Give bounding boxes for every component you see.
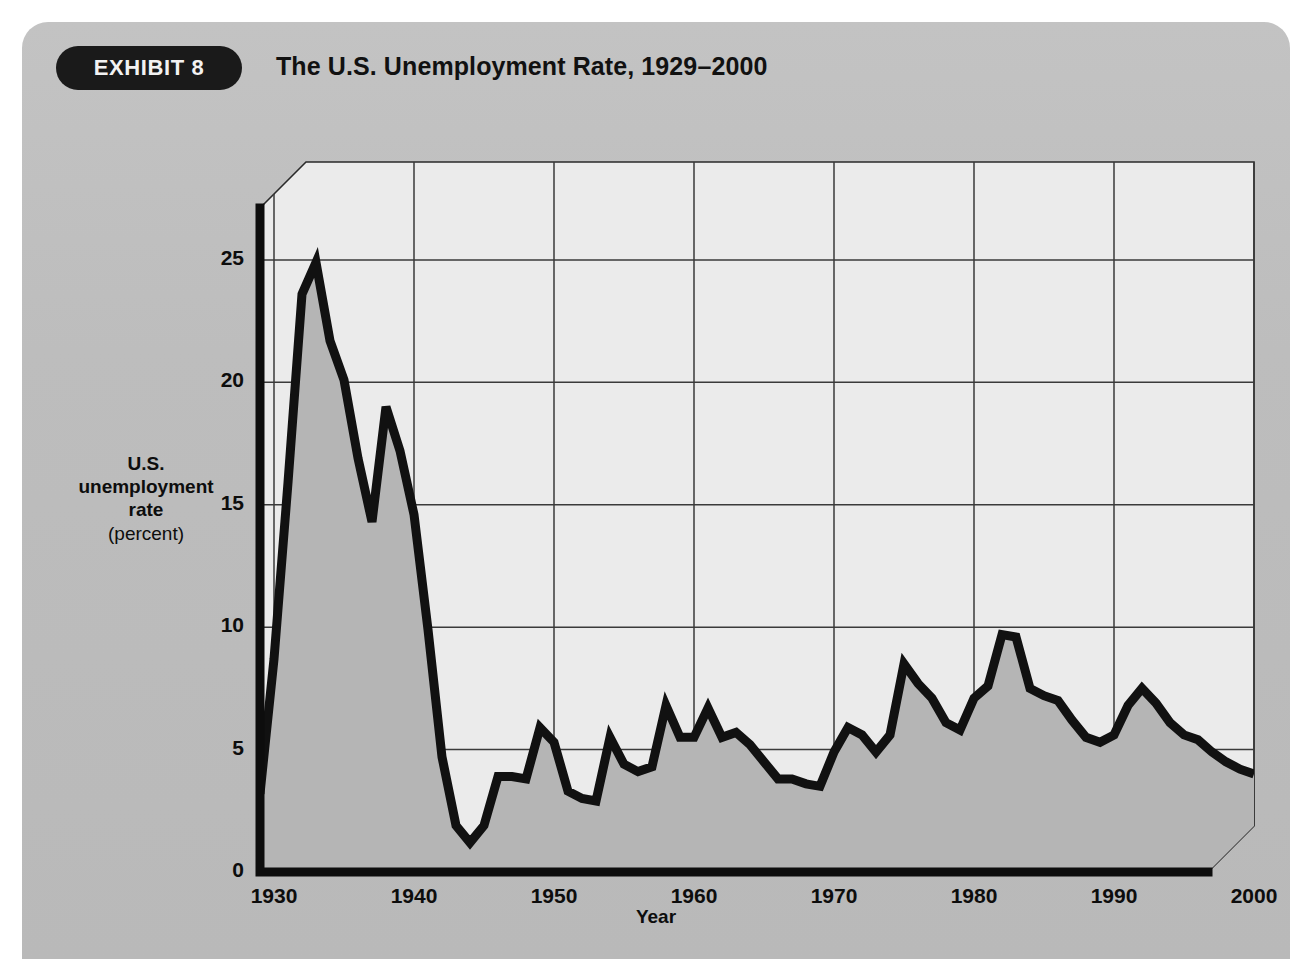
y-tick-label-20: 20 (221, 368, 244, 392)
y-axis-title-line-1: U.S. (58, 452, 234, 475)
y-axis-title: U.S. unemployment rate (percent) (58, 452, 234, 545)
exhibit-title: The U.S. Unemployment Rate, 1929–2000 (276, 52, 767, 81)
y-tick-label-0: 0 (232, 858, 244, 882)
y-tick-label-5: 5 (232, 736, 244, 760)
x-tick-label-1960: 1960 (634, 884, 754, 908)
y-tick-label-10: 10 (221, 613, 244, 637)
x-tick-label-1970: 1970 (774, 884, 894, 908)
x-tick-label-1950: 1950 (494, 884, 614, 908)
y-axis-title-line-2: unemployment (58, 475, 234, 498)
exhibit-card: EXHIBIT 8 The U.S. Unemployment Rate, 19… (22, 22, 1290, 959)
x-axis-title: Year (22, 906, 1290, 928)
exhibit-header: EXHIBIT 8 The U.S. Unemployment Rate, 19… (22, 22, 1290, 100)
y-tick-label-25: 25 (221, 246, 244, 270)
x-tick-label-2000: 2000 (1194, 884, 1312, 908)
x-tick-label-1990: 1990 (1054, 884, 1174, 908)
x-tick-label-1980: 1980 (914, 884, 1034, 908)
y-axis-title-line-3: rate (58, 498, 234, 521)
x-tick-label-1930: 1930 (214, 884, 334, 908)
y-axis-unit-label: (percent) (58, 522, 234, 545)
exhibit-number-label: EXHIBIT 8 (94, 55, 205, 81)
exhibit-figure: EXHIBIT 8 The U.S. Unemployment Rate, 19… (0, 0, 1312, 959)
y-tick-label-15: 15 (221, 491, 244, 515)
exhibit-number-badge: EXHIBIT 8 (56, 46, 242, 90)
chart-plot-area: U.S. unemployment rate (percent) Year 05… (22, 100, 1290, 959)
x-tick-label-1940: 1940 (354, 884, 474, 908)
